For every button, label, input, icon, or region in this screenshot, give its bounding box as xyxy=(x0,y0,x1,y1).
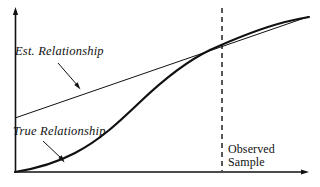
est-relationship-leader-line xyxy=(58,63,78,86)
true-relationship-label: True Relationship xyxy=(13,125,106,138)
econometrics-relationship-figure: Est. Relationship True Relationship Obse… xyxy=(0,0,320,187)
est-relationship-label: Est. Relationship xyxy=(15,45,104,58)
observed-sample-label-line-2: Sample xyxy=(228,156,275,169)
y-axis-arrowhead xyxy=(13,7,18,15)
observed-sample-label: Observed Sample xyxy=(228,143,275,168)
observed-sample-label-line-1: Observed xyxy=(228,143,275,156)
true-relationship-leader-line xyxy=(43,141,62,159)
est-relationship-line xyxy=(15,17,309,119)
x-axis-arrowhead xyxy=(301,169,309,174)
